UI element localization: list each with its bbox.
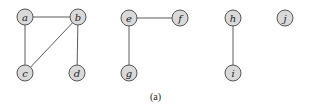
node-label: a (22, 12, 28, 23)
edge-b-c (25, 17, 78, 73)
node-c: c (17, 65, 33, 81)
figure-caption: (a) (150, 91, 161, 103)
node-h: h (225, 10, 241, 26)
node-d: d (69, 65, 85, 81)
node-g: g (121, 65, 137, 81)
graph-diagram: abcdefghij (a) (0, 0, 311, 107)
node-e: e (121, 10, 137, 26)
node-j: j (277, 10, 293, 26)
node-a: a (17, 9, 33, 25)
node-label: d (74, 68, 80, 79)
graph-figure: abcdefghij (a) (0, 0, 311, 107)
node-f: f (172, 10, 188, 26)
node-label: h (230, 13, 236, 24)
node-label: g (126, 68, 132, 79)
nodes-layer: abcdefghij (17, 9, 293, 81)
node-label: c (22, 68, 28, 79)
node-label: i (231, 68, 234, 79)
node-i: i (225, 65, 241, 81)
node-b: b (70, 9, 86, 25)
node-label: b (75, 12, 81, 23)
node-label: e (126, 13, 132, 24)
